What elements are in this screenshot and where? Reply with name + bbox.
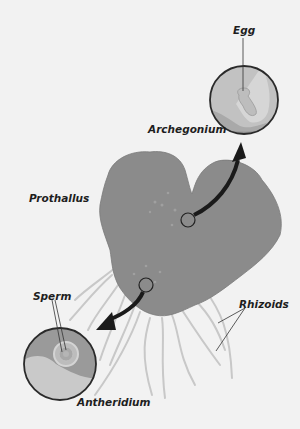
label-sperm: Sperm <box>33 290 71 302</box>
label-antheridium: Antheridium <box>77 396 151 408</box>
antheridium-circle <box>20 325 100 405</box>
label-rhizoids: Rhizoids <box>239 298 289 310</box>
diagram-artwork <box>0 0 300 429</box>
label-egg: Egg <box>233 24 255 36</box>
prothallus-shape <box>100 152 282 316</box>
label-archegonium: Archegonium <box>148 123 226 135</box>
rhizoids-pointer-1 <box>218 308 245 323</box>
fern-gametophyte-diagram: Egg Archegonium Prothallus Sperm Rhizoid… <box>0 0 300 429</box>
label-prothallus: Prothallus <box>29 192 89 204</box>
